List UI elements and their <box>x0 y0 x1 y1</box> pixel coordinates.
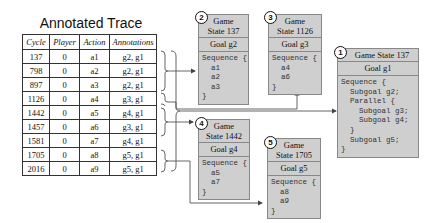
box-goal: Goal g3 <box>269 38 321 52</box>
box-goal: Goal g4 <box>199 143 249 157</box>
box-header: Game State 137 <box>338 49 418 62</box>
box-goal: Goal g1 <box>338 62 418 76</box>
brace-g5 <box>161 150 168 172</box>
step-badge-3: 3 <box>264 11 277 24</box>
brace-g1 <box>171 51 180 171</box>
header-line: State 1126 <box>269 26 321 36</box>
box-body: Sequence { a1 a2 a3 } <box>199 52 248 104</box>
brace-g2 <box>161 51 168 91</box>
step-badge-1: 1 <box>334 46 347 59</box>
goal-box-g4: Game State 1442 Goal g4 Sequence { a5 a7… <box>198 119 250 200</box>
box-goal: Goal g2 <box>199 38 248 52</box>
brace-g4 <box>161 108 168 136</box>
box-body: Sequence { a5 a7 } <box>199 157 249 199</box>
box-goal: Goal g5 <box>268 162 320 176</box>
box-body: Sequence { Subgoal g2; Parallel { Subgoa… <box>338 76 418 157</box>
step-badge-5: 5 <box>264 136 277 149</box>
step-badge-4: 4 <box>195 117 208 130</box>
goal-box-g5: Game State 1705 Goal g5 Sequence { a8 a9… <box>267 138 321 219</box>
box-body: Sequence { a8 a9 } <box>268 176 320 218</box>
header-line: State 137 <box>199 26 248 36</box>
goal-box-g1: Game State 137 Goal g1 Sequence { Subgoa… <box>337 48 419 158</box>
goal-box-g3: Game State 1126 Goal g3 Sequence { a4 a6… <box>268 14 322 95</box>
header-line: State 1705 <box>268 150 320 160</box>
step-badge-2: 2 <box>195 11 208 24</box>
header-line: State 1442 <box>199 131 249 141</box>
goal-box-g2: Game State 137 Goal g2 Sequence { a1 a2 … <box>198 14 249 105</box>
box-body: Sequence { a4 a6 } <box>269 52 321 94</box>
